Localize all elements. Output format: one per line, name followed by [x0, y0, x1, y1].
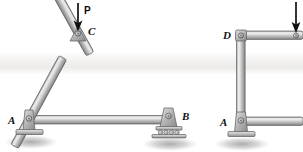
figure-canvas: C A	[0, 0, 303, 152]
label-support-frame-a: A	[219, 116, 227, 128]
ground-shadow-b	[142, 137, 198, 151]
ground-shadow-frame-a	[214, 137, 270, 151]
joint-d	[236, 30, 247, 41]
member-da	[237, 33, 246, 124]
member-frame-bottom	[239, 117, 303, 125]
background-band	[0, 52, 303, 74]
joint-e	[294, 33, 299, 38]
label-support-a: A	[7, 114, 15, 126]
label-joint-d: D	[222, 29, 231, 41]
member-ab	[29, 116, 171, 125]
figure-background	[0, 0, 303, 152]
label-joint-c: C	[88, 25, 96, 37]
label-support-b: B	[181, 110, 189, 122]
label-load-p: P	[84, 5, 91, 16]
